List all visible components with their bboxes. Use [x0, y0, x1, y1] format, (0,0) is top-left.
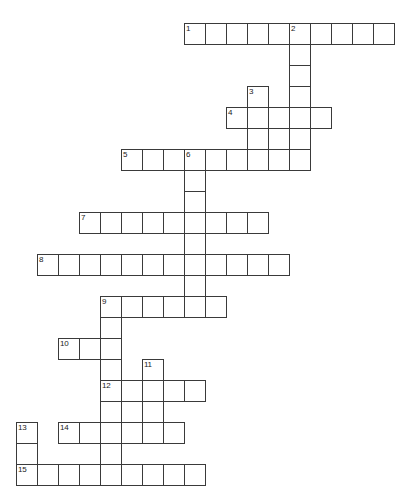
crossword-cell[interactable] — [184, 254, 206, 276]
crossword-cell[interactable] — [205, 212, 227, 234]
crossword-cell-numbered[interactable]: 2 — [289, 23, 311, 45]
crossword-cell[interactable] — [100, 359, 122, 381]
crossword-cell[interactable] — [121, 296, 143, 318]
crossword-cell[interactable] — [310, 107, 332, 129]
cell-number-label: 15 — [18, 465, 26, 474]
crossword-cell[interactable] — [142, 464, 164, 486]
crossword-cell[interactable] — [79, 338, 101, 360]
crossword-cell[interactable] — [226, 23, 248, 45]
crossword-cell[interactable] — [289, 65, 311, 87]
crossword-cell[interactable] — [142, 422, 164, 444]
crossword-cell[interactable] — [58, 464, 80, 486]
crossword-cell[interactable] — [247, 107, 269, 129]
crossword-cell[interactable] — [142, 380, 164, 402]
crossword-cell[interactable] — [163, 149, 185, 171]
crossword-cell-numbered[interactable]: 6 — [184, 149, 206, 171]
crossword-cell[interactable] — [268, 23, 290, 45]
crossword-cell[interactable] — [226, 254, 248, 276]
crossword-cell[interactable] — [37, 464, 59, 486]
crossword-cell[interactable] — [79, 464, 101, 486]
crossword-cell[interactable] — [163, 212, 185, 234]
crossword-cell[interactable] — [100, 212, 122, 234]
crossword-cell[interactable] — [121, 380, 143, 402]
crossword-cell[interactable] — [142, 254, 164, 276]
crossword-cell[interactable] — [226, 149, 248, 171]
crossword-cell[interactable] — [163, 422, 185, 444]
crossword-cell[interactable] — [142, 212, 164, 234]
crossword-cell[interactable] — [100, 422, 122, 444]
cell-number-label: 3 — [249, 87, 253, 96]
crossword-cell-numbered[interactable]: 8 — [37, 254, 59, 276]
crossword-cell[interactable] — [184, 296, 206, 318]
crossword-cell[interactable] — [289, 128, 311, 150]
crossword-cell[interactable] — [247, 23, 269, 45]
cell-number-label: 7 — [81, 213, 85, 222]
crossword-cell[interactable] — [58, 254, 80, 276]
crossword-cell[interactable] — [79, 254, 101, 276]
crossword-cell[interactable] — [247, 149, 269, 171]
crossword-cell[interactable] — [184, 212, 206, 234]
crossword-cell-numbered[interactable]: 1 — [184, 23, 206, 45]
crossword-cell-numbered[interactable]: 5 — [121, 149, 143, 171]
crossword-cell[interactable] — [352, 23, 374, 45]
crossword-cell[interactable] — [184, 170, 206, 192]
crossword-cell[interactable] — [268, 254, 290, 276]
crossword-puzzle-grid: 123456789101112131415 — [0, 0, 420, 501]
crossword-cell[interactable] — [268, 149, 290, 171]
crossword-cell[interactable] — [100, 464, 122, 486]
crossword-cell[interactable] — [184, 191, 206, 213]
cell-number-label: 10 — [60, 339, 68, 348]
crossword-cell-numbered[interactable]: 14 — [58, 422, 80, 444]
crossword-cell[interactable] — [121, 422, 143, 444]
crossword-cell[interactable] — [184, 380, 206, 402]
crossword-cell-numbered[interactable]: 7 — [79, 212, 101, 234]
crossword-cell[interactable] — [16, 443, 38, 465]
crossword-cell[interactable] — [163, 380, 185, 402]
crossword-cell[interactable] — [100, 254, 122, 276]
crossword-cell[interactable] — [247, 128, 269, 150]
crossword-cell-numbered[interactable]: 13 — [16, 422, 38, 444]
crossword-cell-numbered[interactable]: 11 — [142, 359, 164, 381]
crossword-cell[interactable] — [247, 254, 269, 276]
cell-number-label: 14 — [60, 423, 68, 432]
crossword-cell[interactable] — [121, 464, 143, 486]
crossword-cell[interactable] — [142, 149, 164, 171]
crossword-cell[interactable] — [226, 212, 248, 234]
crossword-cell[interactable] — [205, 254, 227, 276]
crossword-cell[interactable] — [163, 464, 185, 486]
crossword-cell[interactable] — [100, 401, 122, 423]
crossword-cell[interactable] — [121, 212, 143, 234]
crossword-cell[interactable] — [289, 86, 311, 108]
crossword-cell-numbered[interactable]: 12 — [100, 380, 122, 402]
cell-number-label: 9 — [102, 297, 106, 306]
crossword-cell[interactable] — [184, 275, 206, 297]
crossword-cell[interactable] — [100, 338, 122, 360]
crossword-cell-numbered[interactable]: 15 — [16, 464, 38, 486]
crossword-cell[interactable] — [121, 254, 143, 276]
crossword-cell[interactable] — [205, 23, 227, 45]
crossword-cell[interactable] — [100, 443, 122, 465]
crossword-cell[interactable] — [373, 23, 395, 45]
crossword-cell[interactable] — [184, 233, 206, 255]
crossword-cell-numbered[interactable]: 10 — [58, 338, 80, 360]
crossword-cell[interactable] — [268, 107, 290, 129]
crossword-cell-numbered[interactable]: 4 — [226, 107, 248, 129]
crossword-cell[interactable] — [79, 422, 101, 444]
crossword-cell[interactable] — [142, 401, 164, 423]
crossword-cell[interactable] — [247, 212, 269, 234]
crossword-cell[interactable] — [184, 464, 206, 486]
crossword-cell-numbered[interactable]: 9 — [100, 296, 122, 318]
crossword-cell[interactable] — [289, 107, 311, 129]
crossword-cell[interactable] — [205, 149, 227, 171]
cell-number-label: 1 — [186, 24, 190, 33]
crossword-cell[interactable] — [289, 44, 311, 66]
crossword-cell[interactable] — [163, 254, 185, 276]
crossword-cell[interactable] — [142, 296, 164, 318]
crossword-cell[interactable] — [331, 23, 353, 45]
crossword-cell[interactable] — [310, 23, 332, 45]
crossword-cell[interactable] — [163, 296, 185, 318]
crossword-cell[interactable] — [205, 296, 227, 318]
crossword-cell[interactable] — [100, 317, 122, 339]
crossword-cell-numbered[interactable]: 3 — [247, 86, 269, 108]
crossword-cell[interactable] — [289, 149, 311, 171]
